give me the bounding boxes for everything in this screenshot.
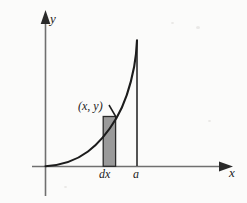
horizontal-axis-label: x [229, 166, 235, 179]
point-leader-line [109, 105, 116, 117]
vertical-axis-arrowhead [41, 10, 51, 24]
vertical-axis-label: y [50, 12, 56, 25]
curve-point-label: (x, y) [78, 100, 103, 112]
figure-canvas [0, 0, 247, 203]
differential-strip-label: dx [99, 168, 110, 180]
upper-limit-label: a [133, 168, 139, 180]
calculus-area-under-curve-figure: y x (x, y) dx a [0, 0, 247, 203]
